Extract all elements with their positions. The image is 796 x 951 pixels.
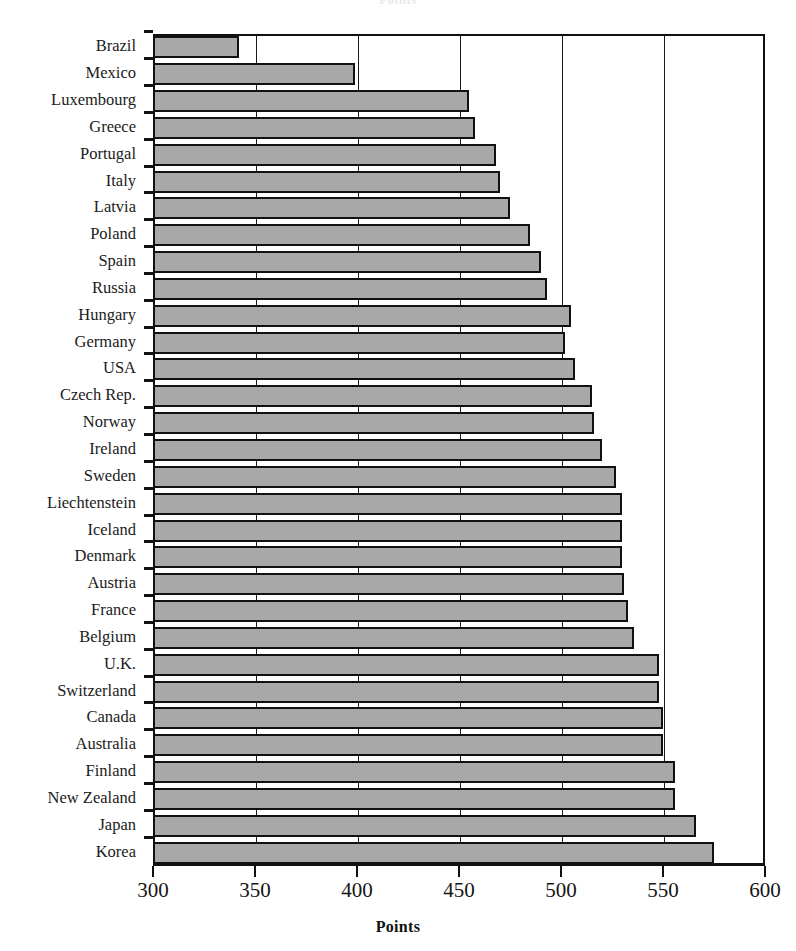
bar [153, 90, 469, 112]
bar [153, 546, 622, 568]
category-label: Italy [106, 173, 136, 190]
y-axis-tick [144, 326, 153, 329]
bar [153, 815, 696, 837]
chart-title: Points [0, 0, 796, 8]
category-label: Portugal [80, 146, 136, 163]
y-axis-tick [144, 487, 153, 490]
x-axis-tick-label: 550 [647, 878, 679, 903]
bar [153, 305, 571, 327]
y-axis-tick [144, 165, 153, 168]
x-axis-tick [254, 866, 256, 877]
bar [153, 520, 622, 542]
y-axis-tick [144, 621, 153, 624]
category-label: USA [103, 360, 136, 377]
y-axis-tick [144, 84, 153, 87]
bar [153, 842, 714, 864]
y-axis-tick [144, 379, 153, 382]
bar [153, 117, 475, 139]
bar-chart: Points BrazilMexicoLuxembourgGreecePortu… [0, 0, 796, 951]
y-axis-tick [144, 299, 153, 302]
category-label: Austria [87, 575, 136, 592]
bar [153, 654, 659, 676]
bar [153, 412, 594, 434]
y-axis-tick [144, 272, 153, 275]
x-axis-tick-labels: 300350400450500550600 [0, 878, 796, 908]
x-axis-tick-label: 500 [545, 878, 577, 903]
bar [153, 761, 675, 783]
x-axis-tick [764, 866, 766, 877]
bar [153, 63, 355, 85]
y-axis-tick [144, 514, 153, 517]
bar [153, 171, 500, 193]
category-label: Germany [75, 334, 136, 351]
bar [153, 493, 622, 515]
category-label: Sweden [84, 468, 136, 485]
category-label: Luxembourg [51, 92, 136, 109]
y-axis-tick [144, 111, 153, 114]
bar [153, 788, 675, 810]
category-label: Korea [96, 844, 136, 861]
category-label: France [91, 602, 136, 619]
y-axis-tick [144, 57, 153, 60]
category-label: Canada [87, 709, 136, 726]
category-label: U.K. [104, 656, 136, 673]
category-label: Belgium [79, 629, 136, 646]
y-axis-tick [144, 728, 153, 731]
bar [153, 600, 628, 622]
category-label: Australia [76, 736, 136, 753]
x-axis-tick-label: 450 [443, 878, 475, 903]
y-axis-tick [144, 406, 153, 409]
y-axis-tick [144, 836, 153, 839]
bar [153, 439, 602, 461]
bar [153, 734, 663, 756]
bar [153, 144, 496, 166]
category-label: New Zealand [48, 790, 136, 807]
bar [153, 224, 530, 246]
bar [153, 707, 663, 729]
x-axis-title: Points [0, 918, 796, 936]
bar [153, 385, 592, 407]
y-axis-tick [144, 540, 153, 543]
y-axis-tick [144, 782, 153, 785]
bar [153, 466, 616, 488]
bar-series [153, 34, 765, 866]
category-label: Spain [98, 253, 136, 270]
y-axis-tick [144, 460, 153, 463]
category-label: Switzerland [57, 683, 136, 700]
x-axis-tick [152, 866, 154, 877]
bar [153, 332, 565, 354]
category-label: Japan [98, 817, 136, 834]
category-label: Hungary [78, 307, 136, 324]
category-label: Iceland [87, 522, 136, 539]
y-axis-tick [144, 218, 153, 221]
x-axis-tick-label: 600 [749, 878, 781, 903]
bar [153, 681, 659, 703]
bar [153, 573, 624, 595]
y-axis-tick [144, 30, 153, 33]
x-axis-tick [458, 866, 460, 877]
category-label: Norway [83, 414, 136, 431]
y-axis-tick [144, 809, 153, 812]
x-axis-tick-label: 350 [239, 878, 271, 903]
category-label: Finland [86, 763, 136, 780]
x-axis-tick-label: 300 [137, 878, 169, 903]
category-label: Russia [92, 280, 136, 297]
category-label: Czech Rep. [60, 387, 136, 404]
category-label: Denmark [75, 548, 136, 565]
category-label: Brazil [96, 38, 136, 55]
y-axis-tick [144, 594, 153, 597]
bar [153, 278, 547, 300]
category-axis: BrazilMexicoLuxembourgGreecePortugalItal… [0, 34, 146, 866]
bar [153, 36, 239, 58]
y-axis-tick [144, 433, 153, 436]
y-axis-tick [144, 245, 153, 248]
y-axis-tick [144, 675, 153, 678]
category-label: Poland [90, 226, 136, 243]
x-axis-tick [356, 866, 358, 877]
bar [153, 197, 510, 219]
x-axis-tick [560, 866, 562, 877]
category-label: Ireland [89, 441, 136, 458]
y-axis-tick [144, 352, 153, 355]
bar [153, 251, 541, 273]
x-axis-tick-label: 400 [341, 878, 373, 903]
